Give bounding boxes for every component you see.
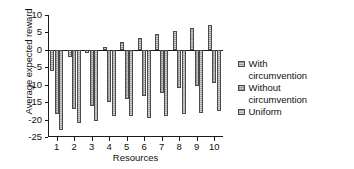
- x-tick-label: 2: [66, 141, 84, 152]
- x-tick-mark: [179, 137, 180, 141]
- bar: [177, 50, 181, 88]
- bar-group: [118, 15, 136, 137]
- bar: [138, 38, 142, 50]
- x-tick-mark: [197, 137, 198, 141]
- legend-label: Withoutcircumvention: [249, 82, 308, 105]
- y-tick-label: -20: [28, 114, 42, 125]
- bar-chart-figure: Average expected reward 1050-5-10-15-20-…: [0, 0, 354, 169]
- bar-group: [48, 15, 66, 137]
- bar: [142, 50, 146, 96]
- bar-group: [188, 15, 206, 137]
- bar: [182, 50, 186, 114]
- legend-item[interactable]: Uniform: [238, 106, 350, 118]
- x-tick-label: 7: [153, 141, 171, 152]
- bar: [212, 50, 216, 83]
- x-tick-label: 3: [83, 141, 101, 152]
- bar: [195, 50, 199, 86]
- bar: [120, 42, 124, 50]
- legend-label: Uniform: [249, 106, 282, 118]
- bar-group: [136, 15, 154, 137]
- bar: [103, 47, 107, 49]
- bar: [208, 25, 212, 50]
- x-tick-mark: [214, 137, 215, 141]
- bar-group: [206, 15, 224, 137]
- y-tick-label: -25: [28, 131, 42, 142]
- y-tick-label: 5: [37, 26, 42, 37]
- bar: [50, 50, 54, 71]
- bar: [90, 50, 94, 106]
- y-tick-label: -5: [34, 61, 42, 72]
- chart-legend: WithcircumventionWithoutcircumventionUni…: [238, 58, 350, 119]
- bar: [77, 50, 81, 123]
- bar-group: [83, 15, 101, 137]
- x-tick-mark: [74, 137, 75, 141]
- x-tick-label: 1: [48, 141, 66, 152]
- bar-group: [153, 15, 171, 137]
- legend-item[interactable]: Withcircumvention: [238, 58, 350, 81]
- bar: [125, 50, 129, 99]
- x-tick-mark: [162, 137, 163, 141]
- x-tick-label: 4: [101, 141, 119, 152]
- y-tick-label: -15: [28, 96, 42, 107]
- bar: [147, 50, 151, 118]
- legend-label: Withcircumvention: [249, 58, 308, 81]
- x-tick-label: 10: [206, 141, 224, 152]
- bar: [217, 50, 221, 111]
- bar: [59, 50, 63, 130]
- bar: [112, 50, 116, 116]
- legend-swatch-icon: [238, 61, 245, 68]
- x-tick-mark: [127, 137, 128, 141]
- legend-swatch-icon: [238, 109, 245, 116]
- legend-item[interactable]: Withoutcircumvention: [238, 82, 350, 105]
- x-tick-mark: [57, 137, 58, 141]
- bar: [85, 50, 89, 53]
- bar: [55, 50, 59, 114]
- x-axis-label: Resources: [48, 152, 223, 163]
- bar-group: [66, 15, 84, 137]
- x-tick-label: 6: [136, 141, 154, 152]
- bar: [164, 50, 168, 116]
- x-tick-label: 5: [118, 141, 136, 152]
- y-tick-label: 10: [31, 9, 42, 20]
- bar: [173, 31, 177, 50]
- x-tick-label: 9: [188, 141, 206, 152]
- bar: [72, 50, 76, 109]
- y-tick-label: -10: [28, 79, 42, 90]
- bar-group: [171, 15, 189, 137]
- bar: [107, 50, 111, 102]
- x-tick-mark: [92, 137, 93, 141]
- bar: [160, 50, 164, 93]
- bar-series-container: [48, 15, 223, 137]
- bar-group: [101, 15, 119, 137]
- x-tick-label: 8: [171, 141, 189, 152]
- bar: [199, 50, 203, 113]
- x-tick-mark: [109, 137, 110, 141]
- y-tick-mark: [45, 137, 49, 138]
- plot-area: 1050-5-10-15-20-25 12345678910: [48, 15, 223, 137]
- y-tick-label: 0: [37, 44, 42, 55]
- bar: [190, 28, 194, 50]
- bar: [155, 34, 159, 50]
- bar: [129, 50, 133, 116]
- x-tick-mark: [144, 137, 145, 141]
- legend-swatch-icon: [238, 85, 245, 92]
- bar: [68, 50, 72, 57]
- bar: [94, 50, 98, 121]
